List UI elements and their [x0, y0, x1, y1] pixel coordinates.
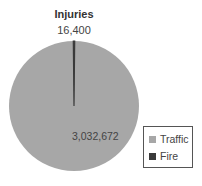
fire-swatch-icon: [149, 153, 156, 160]
legend: Traffic Fire: [143, 126, 193, 168]
traffic-value-label: 3,032,672: [72, 130, 119, 142]
pie-slice-fire: [73, 41, 74, 106]
legend-label-fire: Fire: [160, 150, 178, 162]
legend-label-traffic: Traffic: [160, 133, 189, 145]
traffic-swatch-icon: [149, 136, 156, 143]
legend-item-fire: Fire: [149, 150, 178, 162]
legend-item-traffic: Traffic: [149, 133, 189, 145]
